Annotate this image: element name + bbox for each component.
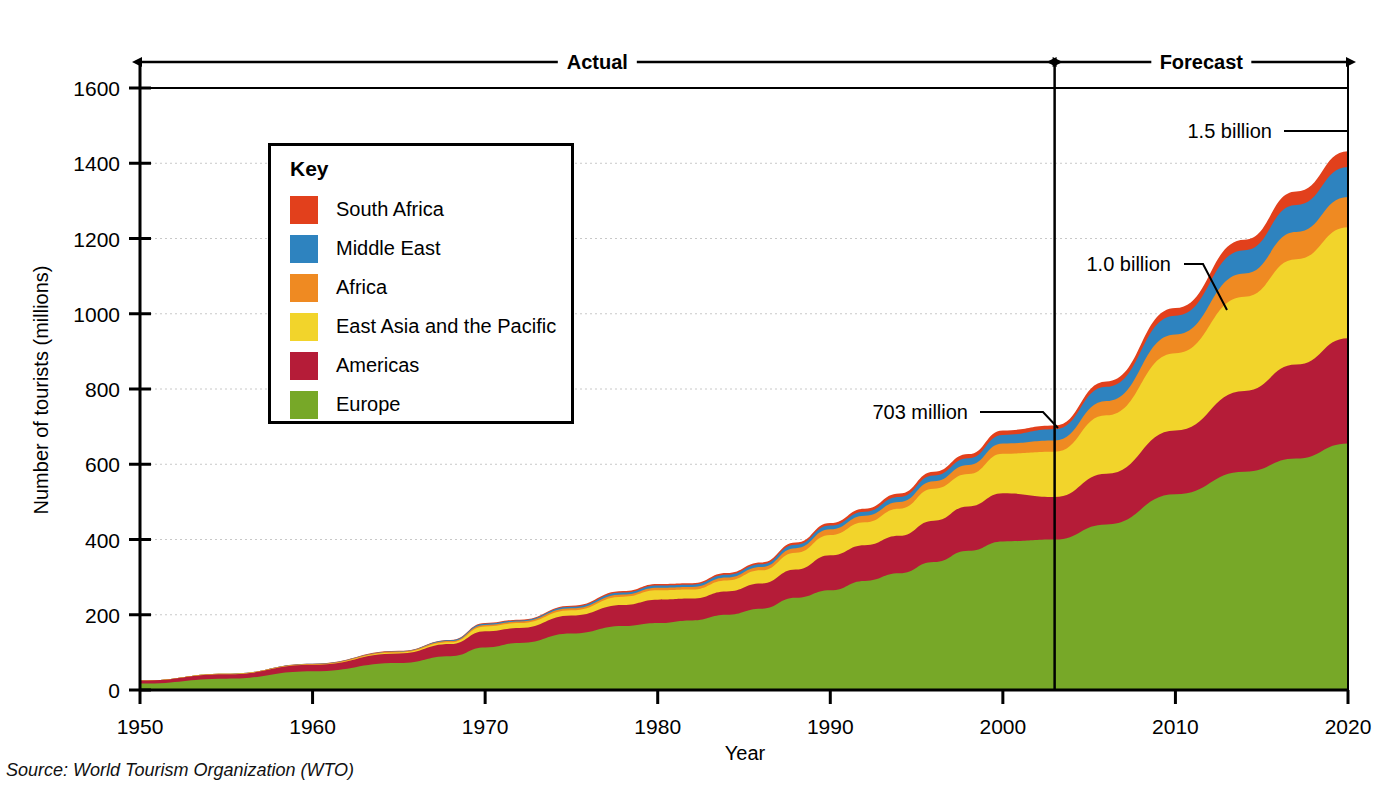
- chart-page: 02004006008001000120014001600 1950196019…: [0, 0, 1399, 799]
- callout-1-0-billion-label: 1.0 billion: [1086, 253, 1171, 275]
- legend-item[interactable]: South Africa: [290, 190, 570, 229]
- legend-swatch-icon: [290, 352, 318, 380]
- y-tick-label: 400: [85, 529, 120, 552]
- x-tick-label: 1950: [117, 715, 164, 738]
- legend-item[interactable]: Africa: [290, 268, 570, 307]
- x-axis-title: Year: [725, 742, 766, 764]
- legend-item-label: East Asia and the Pacific: [336, 315, 556, 338]
- legend-swatch-icon: [290, 235, 318, 263]
- legend-item-label: Africa: [336, 276, 387, 299]
- legend-item-label: Europe: [336, 393, 401, 416]
- stacked-area-chart: 02004006008001000120014001600 1950196019…: [0, 0, 1399, 799]
- callout-703-million-leader-line: [980, 412, 1058, 428]
- y-tick-label: 0: [108, 679, 120, 702]
- actual-bracket-label: Actual: [567, 51, 628, 73]
- legend-swatch-icon: [290, 196, 318, 224]
- legend-item-label: Middle East: [336, 237, 441, 260]
- callout-1-5-billion-label: 1.5 billion: [1187, 120, 1272, 142]
- x-tick-label: 2020: [1325, 715, 1372, 738]
- y-tick-label: 1600: [73, 77, 120, 100]
- legend-item-list: South AfricaMiddle EastAfricaEast Asia a…: [290, 190, 570, 424]
- y-tick-label: 1400: [73, 152, 120, 175]
- legend-item[interactable]: East Asia and the Pacific: [290, 307, 570, 346]
- legend-item[interactable]: Americas: [290, 346, 570, 385]
- legend-swatch-icon: [290, 313, 318, 341]
- y-tick-label: 800: [85, 378, 120, 401]
- y-axis-title: Number of tourists (millions): [30, 266, 52, 515]
- legend-swatch-icon: [290, 391, 318, 419]
- legend-title: Key: [290, 157, 329, 181]
- legend-item-label: Americas: [336, 354, 419, 377]
- x-tick-label: 1980: [634, 715, 681, 738]
- x-tick-label: 2000: [979, 715, 1026, 738]
- x-tick-label: 1960: [289, 715, 336, 738]
- legend-item[interactable]: Middle East: [290, 229, 570, 268]
- x-tick-label: 1990: [807, 715, 854, 738]
- y-tick-label: 200: [85, 604, 120, 627]
- legend-item-label: South Africa: [336, 198, 444, 221]
- legend: Key South AfricaMiddle EastAfricaEast As…: [268, 143, 574, 424]
- legend-swatch-icon: [290, 274, 318, 302]
- source-note: Source: World Tourism Organization (WTO): [6, 760, 354, 781]
- bracket-annotations-group: ActualForecast: [142, 51, 1346, 73]
- forecast-bracket-label: Forecast: [1160, 51, 1244, 73]
- x-tick-label: 1970: [462, 715, 509, 738]
- y-tick-label: 1000: [73, 303, 120, 326]
- legend-item[interactable]: Europe: [290, 385, 570, 424]
- callout-703-million-label: 703 million: [872, 401, 968, 423]
- x-tick-group: 19501960197019801990200020102020: [117, 690, 1372, 738]
- y-tick-label: 600: [85, 453, 120, 476]
- x-tick-label: 2010: [1152, 715, 1199, 738]
- y-tick-label: 1200: [73, 228, 120, 251]
